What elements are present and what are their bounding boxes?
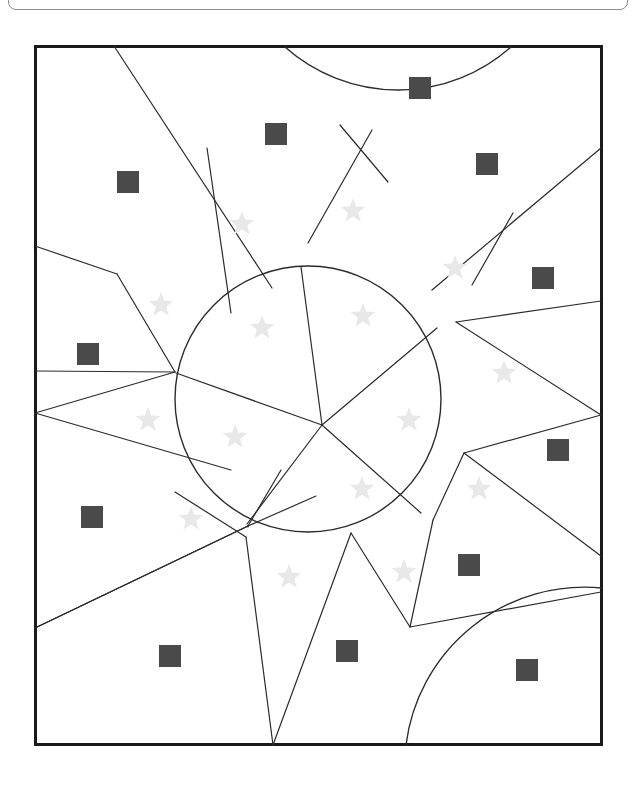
square-marker bbox=[336, 640, 358, 662]
square-marker bbox=[265, 123, 287, 145]
square-marker bbox=[77, 343, 99, 365]
square-marker bbox=[409, 77, 431, 99]
screenshot-stage bbox=[0, 0, 636, 785]
square-marker bbox=[458, 554, 480, 576]
square-marker bbox=[81, 506, 103, 528]
square-marker bbox=[516, 659, 538, 681]
square-marker bbox=[476, 153, 498, 175]
square-marker bbox=[117, 171, 139, 193]
square-marker bbox=[159, 645, 181, 667]
figure-canvas bbox=[0, 0, 636, 785]
shape-counting-figure bbox=[0, 0, 636, 785]
square-marker bbox=[532, 267, 554, 289]
square-marker bbox=[547, 439, 569, 461]
